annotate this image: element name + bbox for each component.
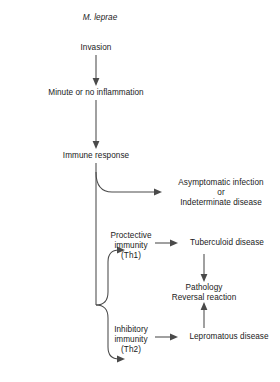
node-protective-line-3: (Th1) bbox=[105, 251, 157, 261]
node-tuberculoid-disease: Tuberculoid disease bbox=[181, 238, 273, 248]
node-protective-immunity: Proctective immunity (Th1) bbox=[105, 231, 157, 262]
node-inhibitory-line-3: (Th2) bbox=[105, 345, 157, 355]
edge-invasion-to-inflammation bbox=[93, 55, 100, 86]
edge-trunk-to-asymptomatic bbox=[96, 172, 162, 195]
node-pathology-line-2: Reversal reaction bbox=[155, 293, 253, 303]
node-pathology-reversal-reaction: Pathology Reversal reaction bbox=[155, 283, 253, 303]
node-lepromatous-disease: Lepromatous disease bbox=[181, 332, 277, 342]
edge-inflammation-to-immune-response bbox=[93, 100, 100, 149]
node-invasion: Invasion bbox=[66, 43, 126, 53]
node-asymptomatic-infection: Asymptomatic infection or Indeterminate … bbox=[164, 178, 278, 209]
node-minute-or-no-inflammation: Minute or no inflammation bbox=[16, 88, 176, 98]
edge-tuberculoid-to-pathology bbox=[201, 254, 208, 282]
node-immune-response: Immune response bbox=[36, 151, 156, 161]
node-asymptomatic-line-1: Asymptomatic infection bbox=[164, 178, 278, 188]
node-pathology-line-1: Pathology bbox=[155, 283, 253, 293]
node-protective-line-2: immunity bbox=[105, 241, 157, 251]
node-asymptomatic-line-3: Indeterminate disease bbox=[164, 198, 278, 208]
node-inhibitory-line-1: Inhibitory bbox=[105, 325, 157, 335]
node-protective-line-1: Proctective bbox=[105, 231, 157, 241]
node-asymptomatic-line-2: or bbox=[164, 188, 278, 198]
flowchart-canvas: M. leprae Invasion Minute or no inflamma… bbox=[0, 0, 280, 382]
node-organism: M. leprae bbox=[70, 13, 130, 23]
edge-protective-to-tuberculoid bbox=[155, 240, 178, 247]
edge-lepromatous-to-pathology bbox=[201, 302, 208, 328]
node-inhibitory-line-2: immunity bbox=[105, 335, 157, 345]
node-inhibitory-immunity: Inhibitory immunity (Th2) bbox=[105, 325, 157, 356]
edge-inhibitory-to-lepromatous bbox=[155, 334, 178, 341]
